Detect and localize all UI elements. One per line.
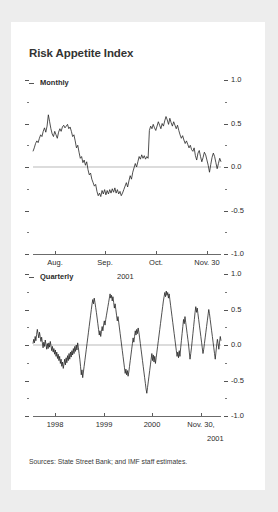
y-axis-label: -0.5 (231, 376, 244, 385)
y-minor-tick-left (27, 232, 29, 233)
y-axis-label: 1.0 (231, 75, 241, 84)
y-major-tick (224, 416, 228, 417)
y-minor-tick (225, 363, 227, 364)
chart-monthly: Monthly 1.00.50.0-0.5-1.0 Aug.Sep.Oct.No… (11, 74, 265, 234)
y-major-tick (224, 80, 228, 81)
y-minor-tick-left (27, 398, 29, 399)
x-axis-label: 1999 (80, 420, 128, 429)
y-major-tick (224, 211, 228, 212)
y-minor-tick-left (27, 145, 29, 146)
y-major-tick (224, 254, 228, 255)
x-axis-tick (156, 251, 157, 254)
y-minor-tick (225, 145, 227, 146)
x-axis-tick (207, 251, 208, 254)
y-major-tick-left (25, 124, 29, 125)
y-axis-label: -1.0 (231, 249, 244, 258)
monthly-plot-area (33, 80, 221, 254)
monthly-series-chart (33, 80, 221, 254)
y-major-tick (224, 345, 228, 346)
figure-card: Risk Appetite Index Monthly 1.00.50.0-0.… (11, 22, 265, 490)
x-axis-label: Nov. 30, (177, 420, 225, 429)
y-axis-label: -1.0 (231, 411, 244, 420)
y-axis-label: -0.5 (231, 206, 244, 215)
x-axis-label: Nov. 30 (183, 258, 231, 267)
y-major-tick (224, 167, 228, 168)
x-axis-label: Aug. (31, 258, 79, 267)
y-axis-label: 0.5 (231, 119, 241, 128)
quarterly-plot-area (33, 274, 221, 416)
y-major-tick (224, 310, 228, 311)
y-axis-label: 0.0 (231, 162, 241, 171)
y-major-tick-left (25, 381, 29, 382)
chart-quarterly: Quarterly 1.00.50.0-0.5-1.0 199819992000… (11, 268, 265, 428)
y-major-tick-left (25, 274, 29, 275)
y-minor-tick (225, 189, 227, 190)
monthly-series-line (33, 115, 221, 197)
quarterly-series-line (33, 291, 221, 393)
y-minor-tick (225, 102, 227, 103)
y-major-tick-left (25, 80, 29, 81)
x-axis-label: 1998 (31, 420, 79, 429)
x-axis-label: Oct. (132, 258, 180, 267)
page-title: Risk Appetite Index (29, 47, 133, 59)
quarterly-x-axis-line (33, 416, 221, 417)
y-major-tick-left (25, 211, 29, 212)
y-major-tick-left (25, 416, 29, 417)
y-axis-label: 0.0 (231, 340, 241, 349)
y-major-tick (224, 381, 228, 382)
y-minor-tick-left (27, 327, 29, 328)
x-axis-tick (152, 413, 153, 416)
x-axis-label: Sep. (81, 258, 129, 267)
y-major-tick-left (25, 167, 29, 168)
x-axis-label: 2000 (128, 420, 176, 429)
y-minor-tick-left (27, 189, 29, 190)
y-minor-tick (225, 232, 227, 233)
y-major-tick (224, 124, 228, 125)
y-minor-tick (225, 398, 227, 399)
y-axis-label: 1.0 (231, 269, 241, 278)
y-major-tick-left (25, 254, 29, 255)
y-minor-tick (225, 292, 227, 293)
y-minor-tick-left (27, 102, 29, 103)
x-axis-tick (55, 251, 56, 254)
x-axis-tick (105, 251, 106, 254)
x-axis-tick (201, 413, 202, 416)
y-major-tick-left (25, 345, 29, 346)
x-axis-tick (55, 413, 56, 416)
y-minor-tick-left (27, 292, 29, 293)
y-major-tick (224, 274, 228, 275)
y-major-tick-left (25, 310, 29, 311)
source-note: Sources: State Street Bank; and IMF staf… (29, 458, 187, 465)
quarterly-x-sublabel: 2001 (207, 434, 224, 443)
y-minor-tick (225, 327, 227, 328)
x-axis-tick (104, 413, 105, 416)
quarterly-series-chart (33, 274, 221, 416)
monthly-x-axis-line (33, 254, 221, 255)
y-minor-tick-left (27, 363, 29, 364)
y-axis-label: 0.5 (231, 305, 241, 314)
